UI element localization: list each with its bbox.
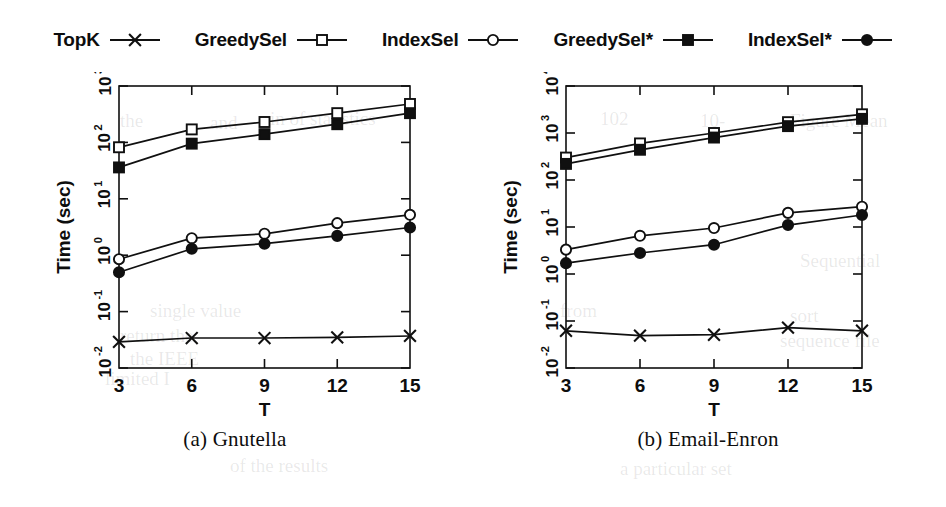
series-indexsel-star [561, 210, 867, 268]
series-greedysel-star [561, 114, 867, 169]
y-axis-title: Time (sec) [500, 180, 521, 274]
x-tick-label: 15 [851, 375, 873, 396]
svg-text:4: 4 [539, 72, 551, 74]
filled-circle-marker [841, 29, 893, 51]
svg-text:10: 10 [96, 189, 115, 208]
legend-label: GreedySel [195, 29, 287, 51]
svg-text:-1: -1 [539, 299, 551, 309]
svg-text:0: 0 [92, 237, 104, 243]
legend-entry-indexsel: IndexSel [382, 29, 520, 51]
panel-caption-b: (b) Email-Enron [470, 427, 946, 452]
svg-text:Time (sec): Time (sec) [500, 180, 521, 274]
svg-text:10: 10 [96, 133, 115, 152]
svg-text:3: 3 [92, 72, 104, 74]
chart-panel-email-enron: 10-210-1100101102103104Time (sec)3691215… [470, 72, 946, 472]
svg-text:3: 3 [539, 115, 551, 121]
legend-entry-greedysel: GreedySel [195, 29, 348, 51]
svg-text:10: 10 [543, 77, 562, 96]
svg-text:-2: -2 [92, 346, 104, 356]
y-tick-label: 104 [539, 72, 562, 95]
legend-label: IndexSel* [748, 29, 832, 51]
y-tick-label: 100 [92, 237, 115, 265]
svg-text:10: 10 [543, 312, 562, 331]
y-tick-label: 10-2 [92, 346, 115, 377]
legend-entry-greedysel-star: GreedySel* [553, 29, 713, 51]
y-tick-label: 101 [539, 209, 562, 237]
plot-gnutella: 10-210-1100101102103Time (sec)3691215T [0, 72, 470, 432]
svg-text:10: 10 [543, 124, 562, 143]
x-tick-label: 9 [259, 375, 270, 396]
svg-text:Time (sec): Time (sec) [53, 180, 74, 274]
filled-square-marker [662, 29, 714, 51]
svg-text:10: 10 [543, 359, 562, 378]
svg-text:10: 10 [543, 171, 562, 190]
y-tick-label: 10-1 [539, 299, 562, 330]
x-tick-label: 6 [186, 375, 197, 396]
chart-panel-gnutella: 10-210-1100101102103Time (sec)3691215T (… [0, 72, 470, 472]
series-topk [113, 330, 416, 348]
plot-email-enron: 10-210-1100101102103104Time (sec)3691215… [470, 72, 946, 432]
legend-label: TopK [53, 29, 99, 51]
y-tick-label: 103 [92, 72, 115, 95]
svg-text:-2: -2 [539, 346, 551, 356]
series-greedysel [114, 99, 415, 152]
series-indexsel [114, 210, 415, 265]
svg-text:10: 10 [96, 302, 115, 321]
svg-text:2: 2 [92, 124, 104, 130]
y-tick-label: 10-1 [92, 290, 115, 321]
svg-text:10: 10 [543, 218, 562, 237]
svg-text:2: 2 [539, 162, 551, 168]
x-tick-label: 12 [777, 375, 798, 396]
x-tick-label: 3 [561, 375, 572, 396]
legend-entry-indexsel-star: IndexSel* [748, 29, 893, 51]
open-square-marker [296, 29, 348, 51]
svg-text:10: 10 [96, 359, 115, 378]
svg-text:1: 1 [539, 209, 551, 215]
y-tick-label: 102 [539, 162, 562, 190]
y-tick-label: 101 [92, 181, 115, 209]
svg-text:1: 1 [92, 181, 104, 187]
x-axis-title: T [259, 399, 271, 420]
y-tick-label: 10-2 [539, 346, 562, 377]
series-topk [560, 322, 868, 342]
figure-container: theandin of statistics10210-single value… [0, 0, 946, 507]
figure-legend: TopKGreedySelIndexSelGreedySel*IndexSel* [0, 18, 946, 62]
open-circle-marker [467, 29, 519, 51]
svg-text:10: 10 [96, 246, 115, 265]
y-tick-label: 102 [92, 124, 115, 152]
x-tick-label: 6 [635, 375, 646, 396]
y-tick-label: 103 [539, 115, 562, 143]
x-tick-label: 9 [709, 375, 720, 396]
legend-label: GreedySel* [553, 29, 652, 51]
svg-text:10: 10 [543, 265, 562, 284]
svg-text:-1: -1 [92, 290, 104, 300]
y-axis-title: Time (sec) [53, 180, 74, 274]
cross-marker [109, 29, 161, 51]
x-tick-label: 3 [114, 375, 125, 396]
legend-entry-topk: TopK [53, 29, 160, 51]
panel-caption-a: (a) Gnutella [0, 427, 470, 452]
svg-text:0: 0 [539, 256, 551, 262]
x-tick-label: 15 [399, 375, 421, 396]
svg-text:10: 10 [96, 77, 115, 96]
x-tick-label: 12 [327, 375, 348, 396]
y-tick-label: 100 [539, 256, 562, 284]
legend-label: IndexSel [382, 29, 459, 51]
x-axis-title: T [708, 399, 720, 420]
